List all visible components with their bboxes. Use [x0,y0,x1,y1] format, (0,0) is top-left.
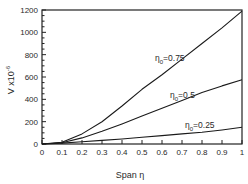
x-tick-label: 0.9 [216,148,228,157]
y-tick-label: 400 [25,95,39,104]
x-tick-label: 0.2 [76,148,88,157]
y-tick-label: 800 [25,51,39,60]
series-labels: η0=0.75η0=0.5η0=0.25 [155,53,215,132]
x-tick-label: 0.5 [136,148,148,157]
x-tick-label: 1 [240,148,245,157]
series-label-0: η0=0.75 [155,53,185,65]
x-tick-label: 0.1 [56,148,68,157]
x-tick-label: 0.4 [116,148,128,157]
y-tick-label: 0 [34,140,39,149]
y-tick-label: 1200 [20,6,38,15]
x-tick-label: 0.7 [176,148,188,157]
x-tick-label: 0.8 [196,148,208,157]
chart: 020040060080010001200 00.10.20.30.40.50.… [0,0,248,184]
y-tick-label: 600 [25,73,39,82]
x-tick-label: 0.6 [156,148,168,157]
x-tick-label: 0 [40,148,45,157]
y-axis-label: V x10-6 [5,65,16,94]
x-tick-label: 0.3 [96,148,108,157]
svg-text:V x10-6: V x10-6 [5,65,16,94]
series-label-2: η0=0.25 [185,120,215,132]
y-tick-label: 200 [25,118,39,127]
y-tick-label: 1000 [20,28,38,37]
x-axis-label: Span η [116,170,145,180]
